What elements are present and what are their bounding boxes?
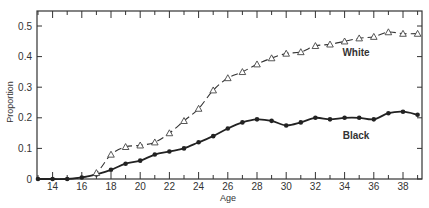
y-tick-label: 0	[26, 174, 32, 185]
black-point-marker	[109, 168, 114, 173]
x-tick-label: 28	[251, 181, 263, 192]
black-series-label: Black	[343, 130, 370, 141]
black-point-marker	[372, 117, 377, 122]
black-point-marker	[342, 116, 347, 121]
white-point-marker	[298, 49, 305, 55]
x-tick-label: 36	[368, 181, 380, 192]
black-point-marker	[386, 111, 391, 116]
black-point-marker	[153, 152, 158, 157]
x-tick-label: 32	[310, 181, 322, 192]
white-point-marker	[239, 69, 246, 75]
line-chart: 00.10.20.30.40.5141618202224262830323436…	[0, 0, 429, 208]
y-tick-label: 0.3	[18, 82, 32, 93]
black-point-marker	[167, 149, 172, 154]
white-point-marker	[327, 41, 334, 47]
plot-border	[37, 11, 422, 179]
black-point-marker	[269, 119, 274, 124]
x-tick-label: 24	[193, 181, 205, 192]
white-point-marker	[108, 151, 115, 157]
x-tick-label: 34	[339, 181, 351, 192]
plot-frame	[37, 11, 422, 179]
black-point-marker	[123, 161, 128, 166]
white-point-marker	[152, 139, 159, 145]
black-point-marker	[138, 158, 143, 163]
y-axis-title: Proportion	[5, 81, 15, 123]
black-point-marker	[328, 117, 333, 122]
white-point-marker	[254, 61, 261, 67]
black-point-marker	[80, 175, 85, 180]
x-tick-label: 18	[105, 181, 117, 192]
black-point-marker	[36, 177, 41, 182]
black-point-marker	[415, 112, 420, 117]
black-point-marker	[211, 134, 216, 139]
black-point-marker	[401, 109, 406, 114]
black-point-marker	[65, 177, 70, 182]
black-point-marker	[357, 116, 362, 121]
white-point-marker	[225, 75, 232, 81]
black-point-marker	[182, 146, 187, 151]
black-point-marker	[240, 120, 245, 125]
x-axis-title: Age	[220, 193, 236, 203]
black-point-marker	[196, 140, 201, 145]
white-series-label: White	[342, 47, 370, 58]
x-tick-label: 16	[76, 181, 88, 192]
x-tick-label: 38	[397, 181, 409, 192]
x-tick-label: 20	[135, 181, 147, 192]
black-series-line	[38, 112, 418, 179]
black-point-marker	[226, 126, 231, 131]
y-tick-label: 0.5	[18, 21, 32, 32]
y-tick-label: 0.4	[18, 51, 32, 62]
black-point-marker	[284, 123, 289, 128]
black-point-marker	[255, 117, 260, 122]
black-point-marker	[299, 120, 304, 125]
x-tick-label: 26	[222, 181, 234, 192]
white-point-marker	[93, 170, 100, 176]
black-point-marker	[50, 177, 55, 182]
black-point-marker	[313, 116, 318, 121]
white-point-marker	[371, 33, 378, 39]
x-tick-label: 22	[164, 181, 176, 192]
y-tick-label: 0.1	[18, 143, 32, 154]
chart-container: 00.10.20.30.40.5141618202224262830323436…	[0, 0, 429, 208]
x-tick-label: 30	[281, 181, 293, 192]
y-tick-label: 0.2	[18, 112, 32, 123]
x-tick-label: 14	[47, 181, 59, 192]
